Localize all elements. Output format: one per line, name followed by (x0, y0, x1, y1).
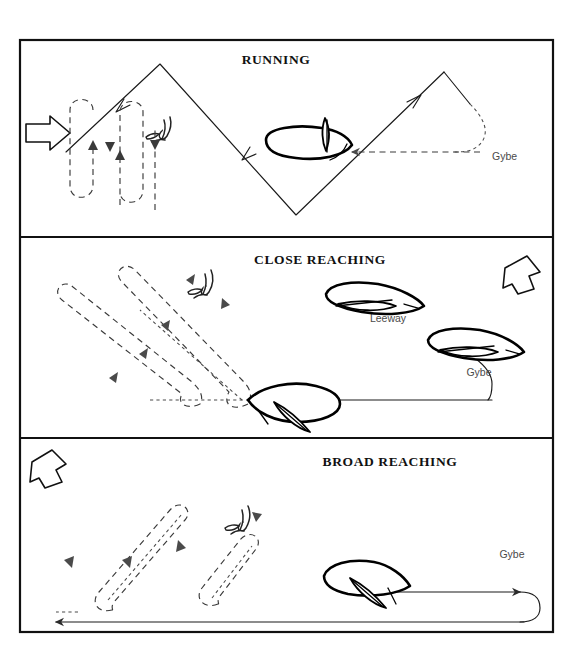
panel-broad-reaching: BROAD REACHING (30, 450, 540, 622)
label-gybe-close-reaching: Gybe (466, 366, 491, 378)
label-gybe-running: Gybe (492, 150, 517, 162)
wind-direction-arrow-close-reaching (503, 256, 540, 294)
tack-arrow-down-1 (88, 140, 98, 150)
tack-arrow-cr-3 (139, 348, 148, 359)
boat-broad-reaching (324, 561, 410, 608)
panel-running: RUNNING Gybe (26, 52, 517, 215)
panel-close-reaching: CLOSE REACHING (58, 252, 540, 432)
label-gybe-broad-reaching: Gybe (499, 548, 524, 560)
tack-loop-br-2 (199, 535, 258, 606)
wind-direction-arrow-running (26, 116, 70, 150)
gybe-curve-broad-reaching (520, 592, 540, 622)
tack-loop-br-1 (95, 505, 188, 611)
wind-direction-arrow-broad-reaching (30, 450, 66, 488)
panel-title-running: RUNNING (242, 52, 311, 67)
tack-loop-2 (120, 102, 143, 206)
boat-close-reaching-main (248, 384, 340, 432)
tack-arrow-down-2 (115, 150, 125, 160)
boat-running (266, 118, 352, 160)
tack-arrow-cr-4 (109, 372, 118, 383)
course-track-running-right (444, 72, 470, 104)
tack-arrow-br-2 (122, 556, 132, 568)
tack-loop-cr-2 (58, 284, 202, 406)
tack-arrow-up-1 (105, 142, 115, 152)
panel-title-close-reaching: CLOSE REACHING (254, 252, 386, 267)
wind-indicator-burgee-broad-reaching (225, 506, 250, 534)
course-arrow-a (116, 99, 130, 112)
tack-leg-cr-3 (140, 310, 242, 400)
tack-arrow-br-1 (64, 556, 74, 568)
tack-leg-br-3 (108, 514, 182, 600)
boat-close-reaching-upper (326, 282, 424, 314)
tack-leg-br-4 (212, 546, 252, 598)
course-track-running (66, 64, 444, 215)
panel-title-broad-reaching: BROAD REACHING (323, 454, 458, 469)
gybe-curve-running (452, 104, 485, 152)
tack-arrow-br-3 (176, 540, 186, 552)
boat-close-reaching-lower (428, 328, 524, 360)
figure-canvas: RUNNING Gybe (0, 0, 588, 668)
tack-arrow-cr-1 (186, 274, 195, 285)
tack-arrow-up-2 (150, 140, 160, 150)
sailing-points-of-sail-figure: RUNNING Gybe (0, 0, 588, 668)
tack-arrow-br-4 (252, 512, 262, 522)
tack-loop-cr-1 (118, 266, 250, 407)
tack-arrow-cr-5 (221, 298, 230, 309)
wind-indicator-burgee-running (146, 117, 171, 142)
